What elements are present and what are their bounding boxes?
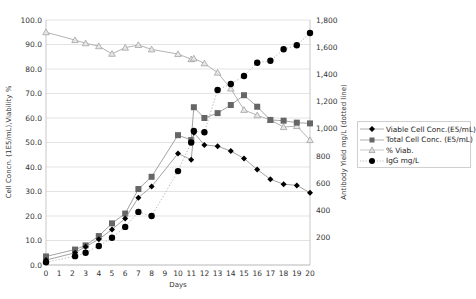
series-total-cell-conc-e5-ml- xyxy=(43,92,313,259)
svg-text:100.0: 100.0 xyxy=(21,16,43,25)
svg-text:15: 15 xyxy=(239,269,249,278)
svg-text:14: 14 xyxy=(226,269,236,278)
svg-text:1,800: 1,800 xyxy=(316,16,338,25)
svg-text:10.0: 10.0 xyxy=(25,236,42,245)
x-axis-title: Days xyxy=(169,281,187,289)
y2-axis-title: Antibody Yield mg/L (dotted line) xyxy=(340,84,348,200)
svg-text:11: 11 xyxy=(186,269,196,278)
legend: Viable Cell Conc.(E5/mL) Total Cell Conc… xyxy=(357,121,471,168)
svg-text:60.0: 60.0 xyxy=(25,114,42,123)
right-axis-ticks: 2004006008001,0001,2001,4001,6001,800 xyxy=(316,16,338,243)
svg-text:17: 17 xyxy=(266,269,276,278)
svg-text:20: 20 xyxy=(305,269,315,278)
svg-text:1,000: 1,000 xyxy=(316,124,338,133)
svg-text:7: 7 xyxy=(136,269,141,278)
svg-text:10: 10 xyxy=(173,269,183,278)
svg-text:1,600: 1,600 xyxy=(316,43,338,52)
svg-text:600: 600 xyxy=(316,179,331,188)
svg-text:16: 16 xyxy=(252,269,262,278)
legend-label: Total Cell Conc. (E5/mL) xyxy=(386,135,473,144)
svg-text:90.0: 90.0 xyxy=(25,40,42,49)
svg-text:8: 8 xyxy=(149,269,154,278)
legend-label: % Viab. xyxy=(386,146,414,155)
svg-text:0: 0 xyxy=(44,269,49,278)
data-series xyxy=(43,29,314,265)
y-axis-title: Cell Concn. (1E5/mL),Viability % xyxy=(5,85,13,198)
legend-label: IgG mg/L xyxy=(386,156,419,165)
svg-text:80.0: 80.0 xyxy=(25,65,42,74)
legend-item-viability: % Viab. xyxy=(360,145,468,156)
svg-text:400: 400 xyxy=(316,206,331,215)
x-axis-ticks: 01234567891011121314151617181920 xyxy=(44,269,315,278)
svg-text:0.0: 0.0 xyxy=(30,261,42,270)
svg-text:13: 13 xyxy=(213,269,223,278)
svg-text:4: 4 xyxy=(96,269,101,278)
svg-text:20.0: 20.0 xyxy=(25,212,42,221)
triangle-icon xyxy=(360,146,384,154)
series-igg-mg-l xyxy=(43,30,313,266)
svg-text:1: 1 xyxy=(57,269,62,278)
legend-item-total: Total Cell Conc. (E5/mL) xyxy=(360,135,468,146)
legend-label: Viable Cell Conc.(E5/mL) xyxy=(386,125,476,134)
legend-item-viable: Viable Cell Conc.(E5/mL) xyxy=(360,124,468,135)
svg-text:9: 9 xyxy=(162,269,167,278)
square-icon xyxy=(360,136,384,144)
svg-text:1,400: 1,400 xyxy=(316,70,338,79)
svg-text:30.0: 30.0 xyxy=(25,187,42,196)
svg-text:200: 200 xyxy=(316,233,331,242)
svg-text:12: 12 xyxy=(200,269,210,278)
svg-text:5: 5 xyxy=(110,269,115,278)
svg-text:3: 3 xyxy=(83,269,88,278)
diamond-icon xyxy=(360,125,384,133)
series--viab- xyxy=(43,29,314,143)
svg-text:18: 18 xyxy=(279,269,289,278)
svg-text:6: 6 xyxy=(123,269,128,278)
svg-text:1,200: 1,200 xyxy=(316,97,338,106)
svg-text:19: 19 xyxy=(292,269,302,278)
svg-text:50.0: 50.0 xyxy=(25,138,42,147)
svg-text:70.0: 70.0 xyxy=(25,89,42,98)
svg-text:2: 2 xyxy=(70,269,75,278)
circle-icon xyxy=(360,157,384,165)
legend-item-igg: IgG mg/L xyxy=(360,156,468,167)
left-axis-ticks: 0.010.020.030.040.050.060.070.080.090.01… xyxy=(21,16,43,270)
svg-text:40.0: 40.0 xyxy=(25,163,42,172)
svg-text:800: 800 xyxy=(316,152,331,161)
